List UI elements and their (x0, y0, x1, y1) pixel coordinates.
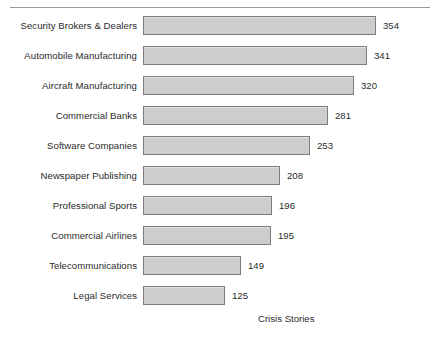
bar-value-label: 208 (287, 161, 303, 191)
category-label: Legal Services (73, 281, 137, 311)
bar-track (143, 251, 241, 281)
bar-row: Newspaper Publishing208 (0, 161, 439, 191)
bar-value-label: 354 (383, 11, 399, 41)
bar-highlight (144, 197, 271, 198)
bar[interactable] (143, 256, 241, 275)
bar-row: Professional Sports196 (0, 191, 439, 221)
category-label: Automobile Manufacturing (24, 41, 137, 71)
bar-row: Aircraft Manufacturing320 (0, 71, 439, 101)
bar-row: Legal Services125 (0, 281, 439, 311)
x-axis-caption: Crisis Stories (258, 313, 315, 324)
bar[interactable] (143, 106, 328, 125)
bar-highlight (144, 137, 309, 138)
bar-track (143, 161, 280, 191)
bar-highlight (144, 227, 270, 228)
bar[interactable] (143, 46, 367, 65)
bar-row: Commercial Airlines195 (0, 221, 439, 251)
category-label: Commercial Airlines (51, 221, 137, 251)
bar-value-label: 253 (317, 131, 333, 161)
bar[interactable] (143, 76, 354, 95)
bar-track (143, 11, 376, 41)
category-label: Telecommunications (49, 251, 137, 281)
bar-value-label: 281 (335, 101, 351, 131)
bar-track (143, 71, 354, 101)
bar-highlight (144, 107, 327, 108)
bar-value-label: 125 (232, 281, 248, 311)
category-label: Software Companies (47, 131, 137, 161)
bar-value-label: 196 (279, 191, 295, 221)
bar-track (143, 131, 310, 161)
bar-chart: Security Brokers & Dealers354Automobile … (0, 0, 439, 345)
bar[interactable] (143, 196, 272, 215)
bar[interactable] (143, 286, 225, 305)
bar-track (143, 281, 225, 311)
category-label: Newspaper Publishing (41, 161, 137, 191)
bar-row: Security Brokers & Dealers354 (0, 11, 439, 41)
bar-track (143, 191, 272, 221)
category-label: Professional Sports (53, 191, 137, 221)
bar-track (143, 221, 271, 251)
category-label: Commercial Banks (56, 101, 137, 131)
bar-value-label: 195 (278, 221, 294, 251)
bar-row: Telecommunications149 (0, 251, 439, 281)
bar-track (143, 101, 328, 131)
bar[interactable] (143, 16, 376, 35)
bar-value-label: 149 (248, 251, 264, 281)
bar-row: Automobile Manufacturing341 (0, 41, 439, 71)
bar-row: Software Companies253 (0, 131, 439, 161)
bar[interactable] (143, 136, 310, 155)
plot-area: Security Brokers & Dealers354Automobile … (0, 11, 439, 311)
bar-highlight (144, 287, 224, 288)
category-label: Security Brokers & Dealers (21, 11, 137, 41)
bar-highlight (144, 17, 375, 18)
bar-highlight (144, 47, 366, 48)
bar-row: Commercial Banks281 (0, 101, 439, 131)
top-divider-rule (10, 7, 430, 8)
bar-highlight (144, 77, 353, 78)
bar-value-label: 341 (374, 41, 390, 71)
bar-highlight (144, 167, 279, 168)
bar[interactable] (143, 226, 271, 245)
bar[interactable] (143, 166, 280, 185)
bar-track (143, 41, 367, 71)
bar-value-label: 320 (361, 71, 377, 101)
bar-highlight (144, 257, 240, 258)
category-label: Aircraft Manufacturing (42, 71, 137, 101)
